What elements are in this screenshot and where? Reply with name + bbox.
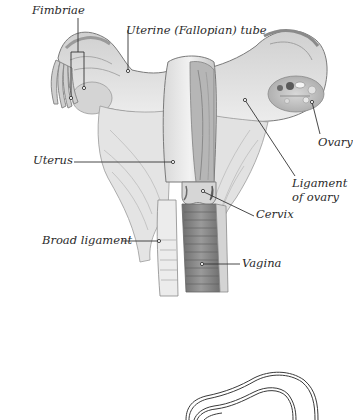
label-fimbriae: Fimbriae — [32, 4, 85, 17]
outline-drawing — [186, 372, 318, 420]
label-broad-ligament: Broad ligament — [42, 234, 132, 247]
label-vagina: Vagina — [242, 257, 281, 270]
label-ligament-of-ovary-line2: of ovary — [292, 191, 339, 204]
label-ovary: Ovary — [318, 136, 353, 149]
label-cervix: Cervix — [256, 208, 294, 221]
cervix-shape — [182, 182, 216, 205]
label-ligament-of-ovary-line1: Ligament — [292, 177, 347, 190]
vagina-shape — [157, 200, 228, 296]
ovary-shape — [268, 76, 324, 112]
uterus-body — [163, 56, 216, 182]
label-uterus: Uterus — [33, 154, 73, 167]
label-fallopian-tube: Uterine (Fallopian) tube — [126, 24, 267, 37]
